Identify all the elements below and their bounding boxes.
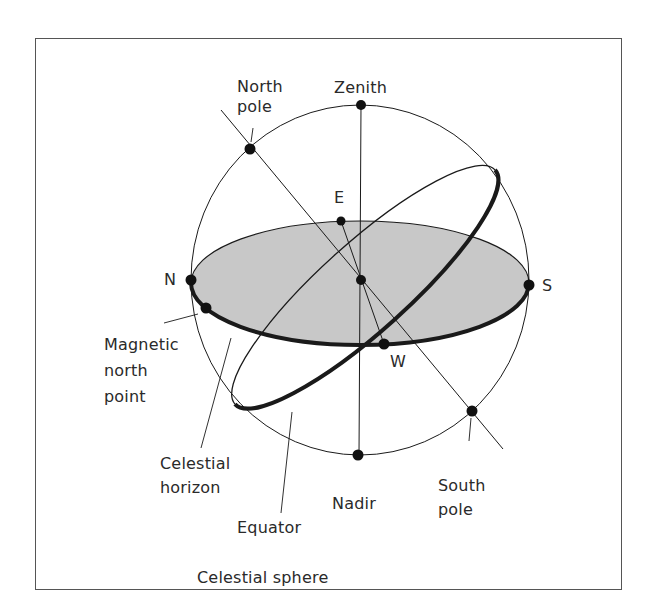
north-point [186, 275, 197, 286]
center-point [356, 275, 366, 285]
nadir-point [353, 450, 364, 461]
zenith-label: Zenith [334, 78, 387, 98]
south-point [524, 280, 535, 291]
celestial-horizon-label: Celestial horizon [160, 452, 230, 500]
north-pole-leader [251, 128, 253, 142]
north-pole-point [245, 144, 256, 155]
figure-caption: Celestial sphere [197, 568, 328, 588]
magnetic-north-point [201, 303, 212, 314]
magnetic-north-leader [164, 314, 198, 323]
west-label: W [390, 352, 406, 372]
magnetic-north-point-label: Magnetic north point [104, 332, 179, 410]
south-pole-leader [469, 418, 471, 441]
equator-leader [281, 412, 292, 513]
south-pole-point [467, 406, 478, 417]
west-point [379, 339, 390, 350]
north-pole-label: North pole [237, 77, 283, 117]
celestial-horizon-leader [201, 338, 231, 448]
nadir-label: Nadir [332, 494, 376, 514]
east-label: E [334, 188, 344, 208]
east-point [337, 217, 346, 226]
celestial-sphere-diagram [0, 0, 652, 616]
north-label: N [164, 270, 176, 290]
equator-label: Equator [237, 518, 301, 538]
zenith-point [356, 100, 366, 110]
south-label: S [542, 276, 552, 296]
south-pole-label: South pole [438, 474, 486, 522]
